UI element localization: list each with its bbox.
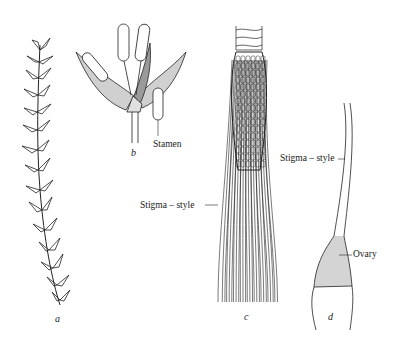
silk-strand bbox=[225, 60, 236, 302]
panel-letter-d: d bbox=[328, 312, 333, 322]
panel-letter-a: a bbox=[55, 314, 60, 324]
panel-letter-c: c bbox=[244, 312, 248, 322]
label-stamen: Stamen bbox=[153, 140, 182, 150]
panel-a-stem-drawing bbox=[22, 38, 70, 305]
label-ovary: Ovary bbox=[353, 250, 377, 260]
silk-strand bbox=[222, 60, 233, 302]
botanical-illustration bbox=[0, 0, 395, 339]
panel-letter-b: b bbox=[131, 148, 136, 158]
label-stigma-style-d: Stigma – style bbox=[280, 154, 334, 164]
panel-b-floret-drawing bbox=[76, 23, 186, 143]
label-stigma-style-c: Stigma – style bbox=[140, 201, 194, 211]
panel-d-pistil-drawing bbox=[312, 103, 353, 330]
panel-c-corn-ear-drawing bbox=[218, 26, 278, 302]
